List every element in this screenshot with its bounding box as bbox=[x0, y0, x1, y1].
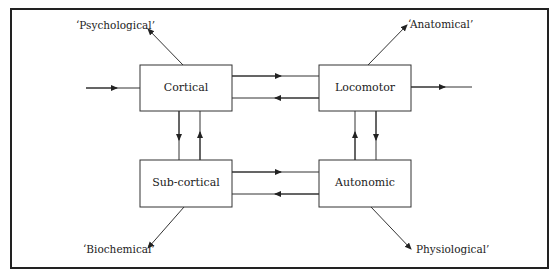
label-biochemical: ‘Biochemical’ bbox=[83, 243, 155, 255]
label-physiological: Physiological’ bbox=[416, 243, 489, 255]
edge-locomotor-to-anatomical bbox=[368, 25, 407, 65]
node-cortical-label: Cortical bbox=[164, 81, 209, 94]
edge-subcortical-to-biochemical bbox=[148, 207, 184, 248]
node-autonomic: Autonomic bbox=[319, 160, 411, 207]
system-diagram: Cortical Locomotor Sub-cortical Autonomi… bbox=[0, 0, 559, 274]
node-subcortical: Sub-cortical bbox=[140, 160, 232, 207]
node-cortical: Cortical bbox=[140, 65, 232, 111]
node-autonomic-label: Autonomic bbox=[334, 176, 395, 189]
edge-autonomic-to-physiological bbox=[371, 207, 411, 249]
node-subcortical-label: Sub-cortical bbox=[152, 176, 220, 189]
node-locomotor-label: Locomotor bbox=[335, 81, 396, 94]
outer-frame bbox=[11, 9, 548, 268]
node-locomotor: Locomotor bbox=[319, 65, 411, 111]
label-psychological: ‘Psychological’ bbox=[76, 19, 155, 31]
edge-cortical-to-psychological bbox=[148, 29, 183, 65]
label-anatomical: ‘Anatomical’ bbox=[408, 18, 473, 30]
